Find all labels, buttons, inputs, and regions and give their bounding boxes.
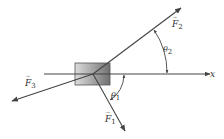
svg-text:θ1: θ1 bbox=[111, 91, 120, 102]
svg-text:θ2: θ2 bbox=[163, 45, 172, 56]
force-f2-arrow bbox=[93, 8, 181, 74]
x-axis-label: x bbox=[210, 69, 215, 79]
f3-label: F3 → bbox=[24, 73, 36, 90]
svg-text:F2: F2 bbox=[171, 19, 183, 31]
svg-text:→: → bbox=[26, 73, 30, 79]
svg-text:F1: F1 bbox=[104, 114, 116, 126]
svg-text:F3: F3 bbox=[24, 78, 36, 90]
force-diagram: x F2 → F3 → F1 → θ2 θ1 bbox=[0, 0, 224, 139]
svg-text:→: → bbox=[173, 14, 177, 20]
theta1-label: θ1 bbox=[111, 91, 120, 102]
svg-text:→: → bbox=[106, 109, 110, 115]
theta2-label: θ2 bbox=[163, 45, 172, 56]
f2-label: F2 → bbox=[171, 14, 183, 31]
